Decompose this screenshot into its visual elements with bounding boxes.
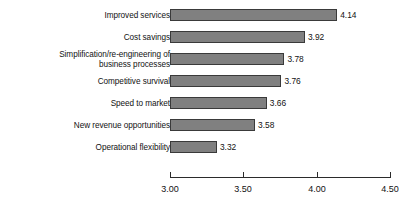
bar-value-label: 3.76	[284, 75, 300, 87]
bar	[170, 141, 217, 153]
x-axis-tick-label: 3.00	[150, 184, 190, 195]
category-label: Competitive survival	[2, 77, 170, 87]
category-label: Cost savings	[2, 33, 170, 43]
category-label: Speed to market	[2, 99, 170, 109]
horizontal-bar-chart: Improved services Cost savings Simplific…	[0, 0, 412, 208]
x-axis-tick-label: 4.00	[297, 184, 337, 195]
bar-value-label: 3.92	[308, 31, 324, 43]
bar-value-label: 4.14	[340, 9, 356, 21]
x-axis-line	[170, 177, 390, 178]
bar	[170, 119, 255, 131]
bar	[170, 97, 267, 109]
x-axis-tick-label: 4.50	[370, 184, 410, 195]
bar	[170, 9, 337, 21]
bar-value-label: 3.78	[287, 53, 303, 65]
x-axis-tick	[170, 172, 171, 178]
x-axis-tick	[317, 172, 318, 178]
bar	[170, 75, 281, 87]
bar	[170, 53, 284, 65]
bar-value-label: 3.66	[270, 97, 286, 109]
category-label: Simplification/re-engineering of busines…	[2, 50, 170, 70]
x-axis-tick	[390, 172, 391, 178]
x-axis-tick-label: 3.50	[223, 184, 263, 195]
category-label: New revenue opportunities	[2, 121, 170, 131]
bar-value-label: 3.32	[220, 141, 236, 153]
x-axis-tick	[243, 172, 244, 178]
category-label: Operational flexibility	[2, 143, 170, 153]
category-label: Improved services	[2, 11, 170, 21]
bar-value-label: 3.58	[258, 119, 274, 131]
bar	[170, 31, 305, 43]
